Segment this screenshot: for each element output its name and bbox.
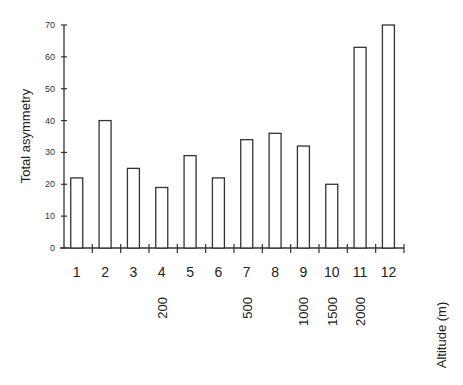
y-axis-title: Total asymmetry: [18, 88, 33, 183]
y-tick-label: 10: [45, 211, 55, 221]
altitude-label: 1000: [296, 297, 311, 326]
bar: [241, 140, 253, 248]
y-axis: 010203040506070: [45, 20, 67, 253]
x-tick-label: 11: [353, 264, 368, 280]
bar: [326, 184, 338, 248]
x-axis-title: Altitude (m): [434, 302, 449, 368]
y-tick-label: 40: [45, 116, 55, 126]
x-tick-label: 2: [101, 264, 109, 280]
bar: [269, 133, 281, 248]
y-tick-label: 0: [50, 243, 55, 253]
x-tick-label: 7: [243, 264, 251, 280]
x-tick-label: 8: [271, 264, 279, 280]
y-tick-label: 30: [45, 147, 55, 157]
bar-chart: 010203040506070 123456789101112 20050010…: [0, 0, 463, 385]
bar: [354, 47, 366, 248]
altitude-label: 500: [240, 297, 255, 319]
altitude-labels: 200500100015002000: [155, 297, 368, 326]
y-tick-label: 60: [45, 52, 55, 62]
bar: [212, 178, 224, 248]
altitude-label: 1500: [325, 297, 340, 326]
bar: [184, 156, 196, 248]
altitude-label: 2000: [353, 297, 368, 326]
x-tick-label: 12: [381, 264, 397, 280]
x-tick-label: 4: [158, 264, 166, 280]
y-tick-label: 70: [45, 20, 55, 30]
bar: [382, 25, 394, 248]
x-tick-labels: 123456789101112: [73, 264, 397, 280]
bar: [297, 146, 309, 248]
bar: [156, 187, 168, 248]
x-tick-label: 6: [215, 264, 223, 280]
altitude-label: 200: [155, 297, 170, 319]
x-tick-label: 1: [73, 264, 81, 280]
bar: [71, 178, 83, 248]
bars: [71, 25, 395, 248]
y-tick-label: 50: [45, 84, 55, 94]
y-tick-label: 20: [45, 179, 55, 189]
bar: [127, 168, 139, 248]
bar: [99, 121, 111, 248]
x-tick-label: 3: [130, 264, 138, 280]
x-tick-label: 5: [186, 264, 194, 280]
x-tick-label: 10: [324, 264, 340, 280]
x-tick-label: 9: [300, 264, 308, 280]
